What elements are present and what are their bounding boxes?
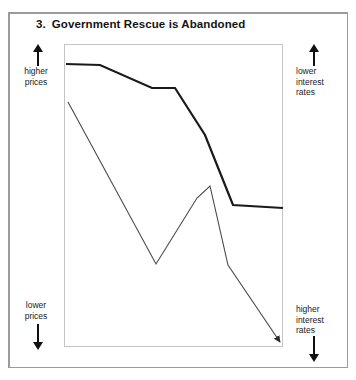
axis-label-lower-interest-rates: lower interest rates — [296, 66, 346, 98]
title-text: Government Rescue is Abandoned — [52, 18, 246, 30]
arrow-down-icon-higher-interest-rates — [306, 336, 322, 362]
arrow-up-icon-lower-interest-rates — [306, 44, 322, 66]
page-title: 3.Government Rescue is Abandoned — [36, 18, 316, 30]
title-number: 3. — [36, 18, 46, 30]
arrow-down-icon-lower-prices — [30, 324, 46, 350]
arrow-up-icon-higher-prices — [30, 44, 46, 66]
axis-label-higher-interest-rates: higher interest rates — [296, 304, 346, 336]
plot-area — [64, 44, 283, 347]
figure-panel: 3.Government Rescue is Abandoned higher … — [0, 0, 356, 380]
axis-label-lower-prices: lower prices — [13, 300, 59, 321]
axis-label-higher-prices: higher prices — [13, 66, 59, 87]
